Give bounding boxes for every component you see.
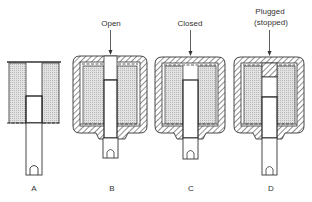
figure-d: Plugged (stopped) D bbox=[234, 7, 304, 193]
diagram: A Open B Closed C bbox=[0, 0, 312, 202]
label-b: B bbox=[109, 184, 114, 193]
figure-a: A bbox=[7, 62, 61, 193]
caption-plugged: Plugged bbox=[255, 7, 284, 16]
figure-b: Open B bbox=[73, 19, 147, 193]
caption-closed: Closed bbox=[178, 19, 203, 28]
label-d: D bbox=[268, 184, 274, 193]
caption-open: Open bbox=[101, 19, 121, 28]
figure-c: Closed C bbox=[155, 19, 225, 193]
label-a: A bbox=[31, 184, 37, 193]
label-c: C bbox=[188, 184, 194, 193]
caption-stopped: (stopped) bbox=[254, 18, 288, 27]
